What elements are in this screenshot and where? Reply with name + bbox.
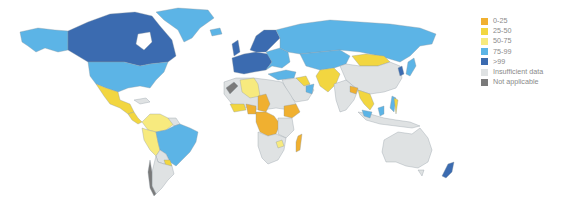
region-alaska: [20, 28, 68, 52]
legend-swatch: [481, 79, 488, 86]
map-legend: 0-25 25-50 50-75 75-99 >99 Insufficient …: [481, 16, 543, 87]
region-canada: [68, 12, 176, 66]
region-scandinavia: [250, 30, 280, 52]
region-australia: [382, 128, 432, 168]
legend-swatch: [481, 38, 488, 45]
region-central-africa: [256, 112, 280, 136]
legend-swatch: [481, 28, 488, 35]
legend-label: 25-50: [493, 26, 511, 36]
legend-swatch: [481, 48, 488, 55]
legend-item-25-50: 25-50: [481, 26, 543, 36]
region-central-america: [128, 112, 142, 124]
legend-item-50-75: 50-75: [481, 36, 543, 46]
region-madagascar: [296, 134, 302, 152]
legend-item-75-99: 75-99: [481, 47, 543, 57]
legend-swatch: [481, 18, 488, 25]
legend-label: Not applicable: [493, 77, 539, 87]
region-japan: [406, 58, 416, 76]
legend-label: 75-99: [493, 47, 511, 57]
region-new-zealand: [442, 162, 454, 178]
legend-swatch: [481, 69, 488, 76]
region-ethiopia: [284, 104, 300, 118]
legend-label: 50-75: [493, 36, 511, 46]
legend-label: 0-25: [493, 16, 507, 26]
world-choropleth-map: [0, 0, 470, 198]
legend-swatch: [481, 58, 488, 65]
legend-item-over-99: >99: [481, 57, 543, 67]
legend-item-insufficient-data: Insufficient data: [481, 67, 543, 77]
legend-label: >99: [493, 57, 505, 67]
region-western-europe: [232, 52, 272, 74]
legend-item-not-applicable: Not applicable: [481, 77, 543, 87]
region-southern-africa: [258, 132, 286, 164]
legend-item-0-25: 0-25: [481, 16, 543, 26]
legend-label: Insufficient data: [493, 67, 543, 77]
